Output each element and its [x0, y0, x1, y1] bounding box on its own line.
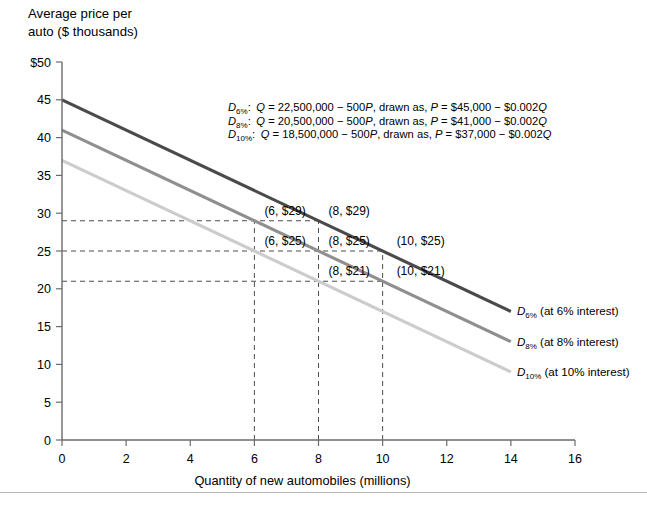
x-axis-title: Quantity of new automobiles (millions) — [194, 473, 410, 488]
x-tick-label-2: 2 — [123, 452, 130, 466]
y-tick-label-30: 30 — [37, 207, 51, 221]
x-tick-label-14: 14 — [504, 452, 518, 466]
x-tick-label-10: 10 — [376, 452, 390, 466]
y-tick-label-25: 25 — [37, 245, 51, 259]
y-tick-label-20: 20 — [37, 282, 51, 296]
y-tick-label-5: 5 — [44, 396, 51, 410]
chart-canvas: Average price perauto ($ thousands)05101… — [0, 0, 647, 509]
equation-line-2: D10%: Q = 18,500,000 − 500P, drawn as, P… — [228, 128, 552, 143]
y-tick-label-35: 35 — [37, 169, 51, 183]
curve-label-D6: D6% (at 6% interest) — [517, 304, 619, 320]
x-tick-label-16: 16 — [568, 452, 582, 466]
y-tick-label-0: 0 — [44, 434, 51, 448]
x-tick-label-0: 0 — [59, 452, 66, 466]
x-tick-label-8: 8 — [315, 452, 322, 466]
x-tick-label-12: 12 — [440, 452, 454, 466]
point-label-2: (6, $25) — [264, 234, 305, 248]
y-axis-title-line2: auto ($ thousands) — [28, 24, 138, 39]
x-tick-label-4: 4 — [187, 452, 194, 466]
point-label-3: (8, $25) — [329, 234, 370, 248]
y-tick-label-15: 15 — [37, 320, 51, 334]
curve-label-D10: D10% (at 10% interest) — [517, 365, 630, 381]
y-tick-label-40: 40 — [37, 131, 51, 145]
footer-divider — [0, 492, 647, 493]
y-axis-title-line1: Average price per — [28, 6, 132, 21]
point-label-6: (10, $21) — [397, 264, 445, 278]
curve-label-D8: D8% (at 8% interest) — [517, 335, 619, 351]
point-label-5: (8, $21) — [329, 264, 370, 278]
point-label-0: (6, $29) — [264, 204, 305, 218]
point-label-1: (8, $29) — [329, 204, 370, 218]
y-tick-label-10: 10 — [37, 358, 51, 372]
x-tick-label-6: 6 — [251, 452, 258, 466]
y-tick-label-50: $50 — [30, 56, 51, 70]
point-label-4: (10, $25) — [397, 234, 445, 248]
y-tick-label-45: 45 — [37, 93, 51, 107]
demand-curve-figure: Average price perauto ($ thousands)05101… — [0, 0, 647, 509]
